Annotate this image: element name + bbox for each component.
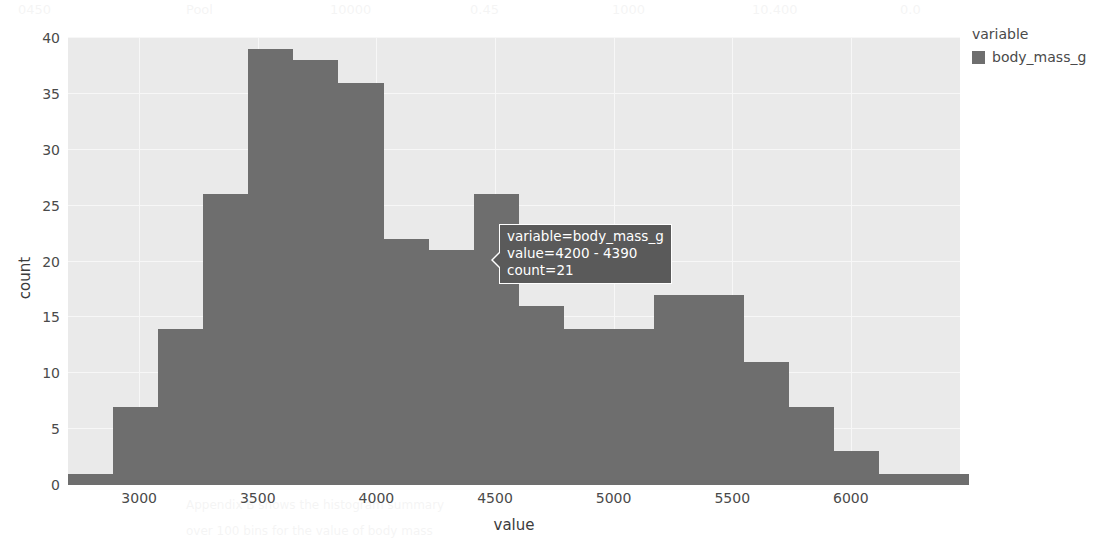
tooltip-line-variable: variable=body_mass_g xyxy=(507,228,664,245)
histogram-bar[interactable] xyxy=(338,83,383,485)
legend-title: variable xyxy=(972,26,1112,42)
tooltip-line-value: value=4200 - 4390 xyxy=(507,245,664,262)
x-tick-label: 5500 xyxy=(714,490,750,506)
histogram-bar[interactable] xyxy=(429,250,474,485)
histogram-bar[interactable] xyxy=(609,329,654,485)
y-tick-label: 35 xyxy=(16,86,60,102)
tooltip-arrow-inner-icon xyxy=(493,253,500,267)
tooltip-line-count: count=21 xyxy=(507,262,664,279)
y-tick-label: 5 xyxy=(16,421,60,437)
histogram-bar[interactable] xyxy=(924,474,969,485)
legend-item-label: body_mass_g xyxy=(992,49,1086,65)
x-tick-label: 4000 xyxy=(359,490,395,506)
legend-entries[interactable]: body_mass_g xyxy=(972,49,1112,65)
histogram-bar[interactable] xyxy=(654,295,699,485)
y-tick-label: 15 xyxy=(16,309,60,325)
legend-item[interactable]: body_mass_g xyxy=(972,49,1112,65)
x-tick-label: 3000 xyxy=(121,490,157,506)
histogram-bar[interactable] xyxy=(203,194,248,485)
y-tick-label: 30 xyxy=(16,142,60,158)
y-axis-title: count xyxy=(16,256,34,298)
x-tick-label: 4500 xyxy=(477,490,513,506)
histogram-bar[interactable] xyxy=(248,49,293,485)
histogram-figure: 0510152025303540 count 30003500400045005… xyxy=(0,0,1118,555)
histogram-bar[interactable] xyxy=(293,60,338,485)
histogram-bar[interactable] xyxy=(564,329,609,485)
x-axis-ticks: 3000350040004500500055006000 xyxy=(0,490,1118,512)
histogram-bar[interactable] xyxy=(744,362,789,485)
histogram-bar[interactable] xyxy=(699,295,744,485)
histogram-bar[interactable] xyxy=(68,474,113,485)
y-tick-label: 40 xyxy=(16,30,60,46)
x-tick-label: 6000 xyxy=(833,490,869,506)
histogram-bar[interactable] xyxy=(834,451,879,485)
histogram-bar[interactable] xyxy=(158,329,203,485)
legend-swatch-icon xyxy=(972,51,985,64)
x-tick-label: 5000 xyxy=(596,490,632,506)
x-axis-title: value xyxy=(68,516,960,534)
histogram-bar[interactable] xyxy=(519,306,564,485)
histogram-bar[interactable] xyxy=(113,407,158,485)
histogram-bar[interactable] xyxy=(879,474,924,485)
y-tick-label: 10 xyxy=(16,365,60,381)
y-tick-label: 25 xyxy=(16,198,60,214)
histogram-bar[interactable] xyxy=(384,239,429,485)
legend: variable body_mass_g xyxy=(972,26,1112,65)
x-tick-label: 3500 xyxy=(240,490,276,506)
histogram-bar[interactable] xyxy=(789,407,834,485)
hover-tooltip: variable=body_mass_g value=4200 - 4390 c… xyxy=(499,224,672,284)
